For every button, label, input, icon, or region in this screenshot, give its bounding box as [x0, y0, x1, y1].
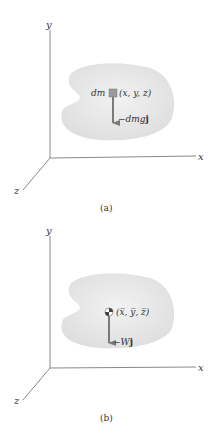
z-axis-a — [23, 158, 50, 190]
position-label-b: (x̅, y̅, z̅) — [116, 307, 150, 317]
element-label-dm: dm — [91, 88, 105, 98]
mass-element-cube — [109, 89, 117, 97]
x-axis-a — [50, 156, 196, 158]
force-label-b: −Wj — [113, 337, 133, 347]
caption-a: (a) — [100, 203, 112, 213]
force-label-a: −dmgj — [118, 114, 149, 124]
center-of-gravity-icon — [105, 308, 113, 316]
rigid-body-a — [61, 63, 174, 140]
caption-b: (b) — [100, 413, 113, 423]
free-body-diagrams: y x z dm (x, y, z) −dmgj (a) y x z (x̅, … — [0, 0, 213, 428]
figure-a: y x z dm (x, y, z) −dmgj (a) — [13, 19, 204, 213]
z-axis-label-a: z — [13, 185, 20, 196]
y-axis-label-b: y — [45, 225, 52, 236]
x-axis-b — [50, 367, 196, 368]
figure-b: y x z (x̅, y̅, z̅) −Wj (b) — [13, 225, 204, 423]
y-axis-label-a: y — [45, 19, 52, 30]
z-axis-b — [23, 368, 50, 400]
z-axis-label-b: z — [13, 395, 20, 406]
x-axis-label-b: x — [198, 362, 204, 373]
position-label-a: (x, y, z) — [119, 88, 152, 98]
x-axis-label-a: x — [198, 151, 204, 162]
